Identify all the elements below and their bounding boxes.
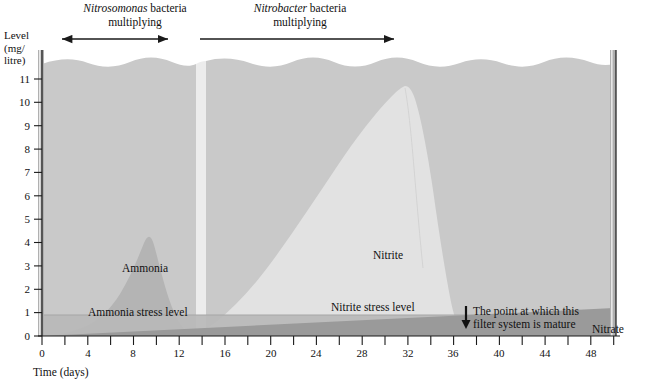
x-tick-label: 24 xyxy=(304,347,328,359)
stress-label-ammonia: Ammonia stress level xyxy=(88,306,188,318)
y-tick-label: 6 xyxy=(8,190,30,202)
x-tick-label: 16 xyxy=(213,347,237,359)
x-tick-label: 40 xyxy=(487,347,511,359)
x-tick-label: 44 xyxy=(533,347,557,359)
x-tick-label: 48 xyxy=(579,347,603,359)
y-tick-label: 4 xyxy=(8,236,30,248)
nitrogen-cycle-chart-figure: Nitrosomonas bacteria multiplying Nitrob… xyxy=(0,0,645,381)
y-tick-label: 0 xyxy=(8,330,30,342)
series-label-nitrate: Nitrate xyxy=(592,323,624,335)
x-tick-label: 36 xyxy=(441,347,465,359)
filter-mature-annotation: The point at which this filter system is… xyxy=(473,305,579,331)
water-backdrop-left xyxy=(42,58,196,337)
x-tick-label: 0 xyxy=(30,347,54,359)
y-tick-label: 10 xyxy=(8,96,30,108)
series-label-nitrite: Nitrite xyxy=(373,249,403,261)
x-tick-label: 32 xyxy=(396,347,420,359)
x-axis-ticks xyxy=(42,336,614,345)
y-tick-label: 9 xyxy=(8,120,30,132)
stress-label-nitrite: Nitrite stress level xyxy=(331,301,415,313)
y-axis-bar xyxy=(38,50,44,336)
series-label-ammonia: Ammonia xyxy=(122,262,168,274)
right-edge-bar-highlight xyxy=(611,50,613,336)
filter-mature-line-1: The point at which this xyxy=(473,305,579,317)
y-tick-label: 1 xyxy=(8,306,30,318)
y-tick-label: 5 xyxy=(8,213,30,225)
filter-mature-line-2: filter system is mature xyxy=(473,318,576,330)
x-tick-label: 4 xyxy=(76,347,100,359)
x-tick-label: 28 xyxy=(350,347,374,359)
y-tick-label: 8 xyxy=(8,143,30,155)
y-tick-label: 2 xyxy=(8,283,30,295)
right-edge-bar xyxy=(610,50,616,336)
y-tick-label: 11 xyxy=(8,73,30,85)
x-tick-label: 12 xyxy=(167,347,191,359)
water-backdrop-gap xyxy=(196,61,206,336)
x-tick-label: 20 xyxy=(259,347,283,359)
x-tick-label: 8 xyxy=(121,347,145,359)
y-tick-label: 7 xyxy=(8,166,30,178)
y-axis-bar-highlight xyxy=(39,50,41,336)
y-tick-label: 3 xyxy=(8,260,30,272)
